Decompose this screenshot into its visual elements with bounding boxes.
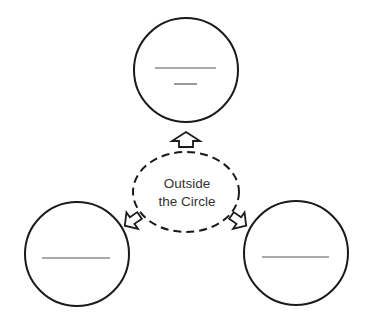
center-ellipse: Outside the Circle (133, 152, 239, 232)
outside-the-circle-diagram: Outside the Circle (0, 0, 365, 320)
arrow-up-icon (172, 132, 200, 147)
bottom-right-circle (244, 201, 348, 305)
bottom-left-circle (25, 202, 129, 306)
center-label-line-1: Outside (164, 176, 211, 191)
center-label-line-2: the Circle (158, 194, 215, 209)
top-circle (134, 18, 238, 122)
